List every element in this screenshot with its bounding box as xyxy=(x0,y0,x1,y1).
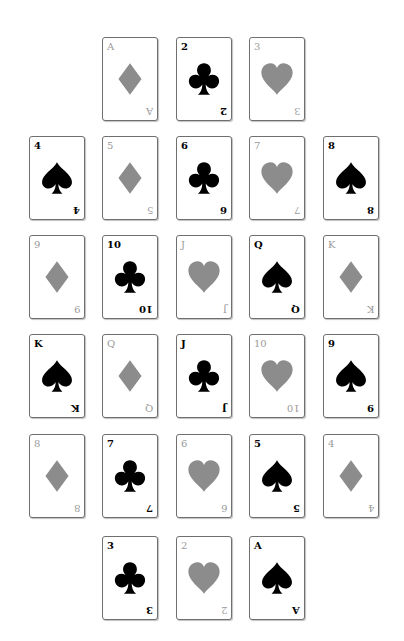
card-rank-bottom: J xyxy=(223,304,227,314)
card-rank-top: 3 xyxy=(254,42,260,52)
card-rank-top: 7 xyxy=(107,439,114,449)
card-board: AA22334455667788991010JJQQKKKKQQJJ101099… xyxy=(0,0,404,641)
card-rank-bottom: 5 xyxy=(293,503,300,513)
card-rank-top: 4 xyxy=(328,439,334,449)
card-rank-bottom: 3 xyxy=(294,106,300,116)
card-8-of-diamonds[interactable]: 88 xyxy=(29,434,85,518)
card-7-of-hearts[interactable]: 77 xyxy=(249,136,305,220)
card-rank-bottom: 9 xyxy=(74,304,80,314)
card-rank-bottom: 7 xyxy=(146,503,153,513)
card-rank-top: Q xyxy=(254,240,263,250)
card-k-of-diamonds[interactable]: KK xyxy=(323,235,379,319)
diamond-icon xyxy=(40,457,74,495)
heart-icon xyxy=(260,60,294,98)
heart-icon xyxy=(260,357,294,395)
card-rank-top: 2 xyxy=(181,541,187,551)
card-rank-bottom: A xyxy=(146,106,153,116)
card-rank-top: 7 xyxy=(254,141,260,151)
card-5-of-spades[interactable]: 55 xyxy=(249,434,305,518)
card-6-of-hearts[interactable]: 66 xyxy=(176,434,232,518)
card-rank-bottom: 10 xyxy=(287,403,300,413)
card-6-of-clubs[interactable]: 66 xyxy=(176,136,232,220)
club-icon xyxy=(187,357,221,395)
card-rank-bottom: 8 xyxy=(367,205,374,215)
card-rank-top: K xyxy=(328,240,335,250)
card-rank-top: 9 xyxy=(34,240,40,250)
card-rank-top: 8 xyxy=(328,141,335,151)
heart-icon xyxy=(187,559,221,597)
card-rank-top: 3 xyxy=(107,541,114,551)
card-rank-top: J xyxy=(181,240,185,250)
card-rank-top: A xyxy=(254,541,262,551)
card-rank-top: J xyxy=(181,339,186,349)
card-rank-bottom: 7 xyxy=(294,205,300,215)
diamond-icon xyxy=(113,60,147,98)
card-rank-bottom: 6 xyxy=(220,205,227,215)
diamond-icon xyxy=(113,357,147,395)
heart-icon xyxy=(187,258,221,296)
card-rank-bottom: 2 xyxy=(220,106,227,116)
card-rank-bottom: K xyxy=(71,403,80,413)
card-9-of-spades[interactable]: 99 xyxy=(323,334,379,418)
card-rank-top: 6 xyxy=(181,439,187,449)
card-8-of-spades[interactable]: 88 xyxy=(323,136,379,220)
card-rank-bottom: 4 xyxy=(368,503,374,513)
heart-icon xyxy=(187,457,221,495)
card-rank-bottom: Q xyxy=(145,403,153,413)
card-rank-top: 5 xyxy=(107,141,113,151)
spade-icon xyxy=(260,258,294,296)
card-rank-bottom: A xyxy=(292,605,300,615)
card-rank-bottom: 5 xyxy=(147,205,153,215)
card-rank-bottom: 8 xyxy=(74,503,80,513)
card-j-of-hearts[interactable]: JJ xyxy=(176,235,232,319)
card-rank-top: Q xyxy=(107,339,115,349)
diamond-icon xyxy=(113,159,147,197)
card-rank-top: 8 xyxy=(34,439,40,449)
card-a-of-diamonds[interactable]: AA xyxy=(102,37,158,121)
card-q-of-diamonds[interactable]: QQ xyxy=(102,334,158,418)
card-rank-bottom: 3 xyxy=(146,605,153,615)
spade-icon xyxy=(334,159,368,197)
card-rank-top: 6 xyxy=(181,141,188,151)
card-4-of-diamonds[interactable]: 44 xyxy=(323,434,379,518)
card-10-of-clubs[interactable]: 1010 xyxy=(102,235,158,319)
heart-icon xyxy=(260,159,294,197)
card-rank-bottom: 9 xyxy=(367,403,374,413)
card-rank-bottom: J xyxy=(222,403,227,413)
diamond-icon xyxy=(334,258,368,296)
card-7-of-clubs[interactable]: 77 xyxy=(102,434,158,518)
card-rank-bottom: 10 xyxy=(139,304,153,314)
card-rank-bottom: 6 xyxy=(221,503,227,513)
card-3-of-clubs[interactable]: 33 xyxy=(102,536,158,620)
spade-icon xyxy=(40,357,74,395)
card-rank-top: K xyxy=(34,339,43,349)
card-rank-bottom: 2 xyxy=(221,605,227,615)
card-rank-top: 4 xyxy=(34,141,41,151)
club-icon xyxy=(113,559,147,597)
card-rank-top: 10 xyxy=(107,240,121,250)
diamond-icon xyxy=(40,258,74,296)
card-2-of-clubs[interactable]: 22 xyxy=(176,37,232,121)
card-a-of-spades[interactable]: AA xyxy=(249,536,305,620)
card-rank-bottom: 4 xyxy=(73,205,80,215)
card-10-of-hearts[interactable]: 1010 xyxy=(249,334,305,418)
card-q-of-spades[interactable]: QQ xyxy=(249,235,305,319)
spade-icon xyxy=(40,159,74,197)
card-rank-top: 9 xyxy=(328,339,335,349)
card-j-of-clubs[interactable]: JJ xyxy=(176,334,232,418)
card-4-of-spades[interactable]: 44 xyxy=(29,136,85,220)
club-icon xyxy=(113,258,147,296)
diamond-icon xyxy=(334,457,368,495)
card-k-of-spades[interactable]: KK xyxy=(29,334,85,418)
card-rank-top: 5 xyxy=(254,439,261,449)
card-3-of-hearts[interactable]: 33 xyxy=(249,37,305,121)
card-rank-bottom: K xyxy=(367,304,374,314)
club-icon xyxy=(187,159,221,197)
card-rank-top: 2 xyxy=(181,42,188,52)
club-icon xyxy=(113,457,147,495)
card-2-of-hearts[interactable]: 22 xyxy=(176,536,232,620)
card-9-of-diamonds[interactable]: 99 xyxy=(29,235,85,319)
club-icon xyxy=(187,60,221,98)
card-rank-bottom: Q xyxy=(291,304,300,314)
card-5-of-diamonds[interactable]: 55 xyxy=(102,136,158,220)
